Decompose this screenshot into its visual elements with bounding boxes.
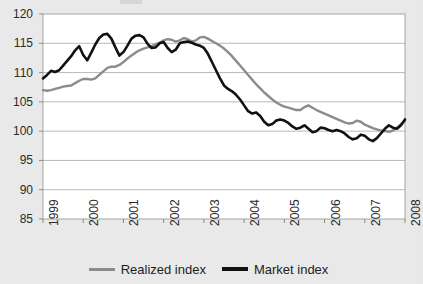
y-tick-label: 100 (3, 125, 33, 137)
y-tick-label: 90 (3, 184, 33, 196)
x-tick-label: 2006 (330, 199, 342, 226)
legend-entry-realized-index[interactable]: Realized index (89, 263, 206, 276)
y-tick-label: 105 (3, 96, 33, 108)
x-tick-label: 2003 (209, 199, 221, 226)
plot-background (43, 14, 405, 219)
chart-legend: Realized index Market index (0, 258, 417, 280)
legend-label-realized: Realized index (121, 263, 206, 276)
y-tick-label: 120 (3, 8, 33, 20)
legend-swatch-market-icon (222, 267, 248, 271)
y-axis-ticks (39, 14, 43, 219)
x-tick-label: 2002 (169, 199, 181, 226)
y-tick-label: 115 (3, 37, 33, 49)
x-tick-label: 1999 (48, 199, 60, 226)
x-tick-label: 2005 (289, 199, 301, 226)
legend-swatch-realized-icon (89, 268, 115, 271)
y-tick-label: 95 (3, 154, 33, 166)
x-tick-label: 2000 (88, 199, 100, 226)
legend-entry-market-index[interactable]: Market index (222, 263, 328, 276)
x-tick-label: 2007 (370, 199, 382, 226)
x-tick-label: 2001 (128, 199, 140, 226)
legend-label-market: Market index (254, 263, 328, 276)
y-tick-label: 85 (3, 213, 33, 225)
y-tick-label: 110 (3, 67, 33, 79)
x-tick-label: 2004 (249, 199, 261, 226)
x-tick-label: 2008 (410, 199, 422, 226)
